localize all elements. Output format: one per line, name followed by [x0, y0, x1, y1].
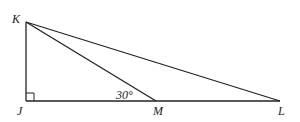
triangle-figure: K J M L 30°: [0, 0, 300, 122]
point-label-j: J: [17, 104, 23, 118]
point-label-m: M: [152, 104, 164, 118]
point-label-l: L: [277, 104, 285, 118]
segment-kl: [26, 22, 280, 101]
point-label-k: K: [11, 12, 21, 26]
right-angle-marker: [26, 93, 34, 101]
angle-label-30: 30°: [115, 88, 133, 102]
geometry-diagram: K J M L 30°: [0, 0, 300, 122]
segment-km: [26, 22, 156, 101]
